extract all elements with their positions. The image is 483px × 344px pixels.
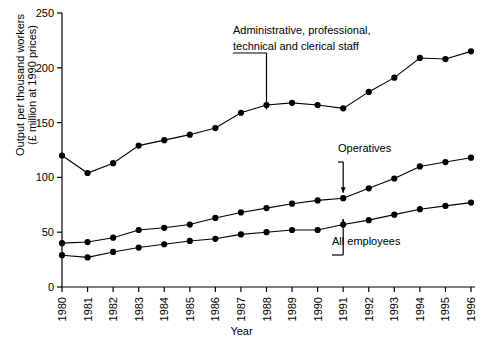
x-tick-label: 1993 xyxy=(388,297,400,321)
y-tick-label: 150 xyxy=(36,117,54,129)
x-tick-label: 1983 xyxy=(133,297,145,321)
x-tick-label: 1996 xyxy=(465,297,477,321)
data-point xyxy=(391,212,397,218)
x-tick-label: 1985 xyxy=(184,297,196,321)
y-tick-label: 200 xyxy=(36,62,54,74)
x-tick-label: 1990 xyxy=(312,297,324,321)
data-point xyxy=(84,170,90,176)
data-point xyxy=(238,110,244,116)
data-point xyxy=(238,209,244,215)
data-point xyxy=(161,241,167,247)
data-point xyxy=(187,221,193,227)
data-point xyxy=(366,89,372,95)
data-point xyxy=(391,75,397,81)
x-tick-label: 1987 xyxy=(235,297,247,321)
data-point xyxy=(340,195,346,201)
data-point xyxy=(212,125,218,131)
data-point xyxy=(187,132,193,138)
data-point xyxy=(84,254,90,260)
data-point xyxy=(212,236,218,242)
data-point xyxy=(417,206,423,212)
data-point xyxy=(84,239,90,245)
x-tick-label: 1991 xyxy=(337,297,349,321)
data-point xyxy=(417,55,423,61)
data-point xyxy=(110,160,116,166)
data-point xyxy=(468,200,474,206)
data-point xyxy=(110,235,116,241)
data-point xyxy=(468,155,474,161)
annotation-operatives: Operatives xyxy=(338,142,391,154)
y-tick-label: 50 xyxy=(42,226,54,238)
data-point xyxy=(391,175,397,181)
data-point xyxy=(442,159,448,165)
data-point xyxy=(238,231,244,237)
data-point xyxy=(136,244,142,250)
data-point xyxy=(136,143,142,149)
annotation-all-employees: All employees xyxy=(332,235,400,247)
data-point xyxy=(289,201,295,207)
x-tick-label: 1981 xyxy=(82,297,94,321)
annotation-admin-line2: technical and clerical staff xyxy=(233,40,359,52)
x-tick-label: 1994 xyxy=(414,297,426,321)
data-point xyxy=(187,238,193,244)
data-point xyxy=(161,137,167,143)
x-tick-label: 1992 xyxy=(363,297,375,321)
annotation-admin-line1: Administrative, professional, xyxy=(233,24,371,36)
data-point xyxy=(366,217,372,223)
data-point xyxy=(366,185,372,191)
data-point xyxy=(212,215,218,221)
data-point xyxy=(315,197,321,203)
chart-container: Output per thousand workers (£ million a… xyxy=(0,0,483,344)
data-point xyxy=(442,203,448,209)
data-point xyxy=(263,229,269,235)
annotation-all-employees-leader-head xyxy=(341,219,346,224)
x-tick-label: 1988 xyxy=(261,297,273,321)
data-point xyxy=(136,227,142,233)
data-point xyxy=(289,227,295,233)
x-tick-label: 1989 xyxy=(286,297,298,321)
data-point xyxy=(315,102,321,108)
data-point xyxy=(468,48,474,54)
data-point xyxy=(110,249,116,255)
data-point xyxy=(161,225,167,231)
data-point xyxy=(417,163,423,169)
x-tick-label: 1986 xyxy=(209,297,221,321)
data-point xyxy=(263,205,269,211)
x-tick-label: 1995 xyxy=(439,297,451,321)
annotation-operatives-leader-head xyxy=(341,187,346,192)
data-point xyxy=(59,240,65,246)
data-point xyxy=(315,227,321,233)
data-point xyxy=(340,105,346,111)
y-tick-label: 0 xyxy=(48,281,54,293)
data-point xyxy=(59,252,65,258)
data-point xyxy=(442,56,448,62)
y-tick-label: 250 xyxy=(36,7,54,19)
x-tick-label: 1980 xyxy=(56,297,68,321)
data-point xyxy=(59,152,65,158)
x-tick-label: 1984 xyxy=(158,297,170,321)
x-tick-label: 1982 xyxy=(107,297,119,321)
data-point xyxy=(289,100,295,106)
y-tick-label: 100 xyxy=(36,171,54,183)
annotation-admin: Administrative, professional, technical … xyxy=(233,22,371,54)
